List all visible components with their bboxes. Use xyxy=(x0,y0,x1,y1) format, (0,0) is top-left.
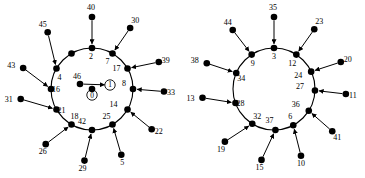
node-label: 43 xyxy=(7,61,15,70)
graph-node[interactable] xyxy=(272,127,279,134)
graph-node[interactable] xyxy=(89,14,96,21)
graph-node[interactable] xyxy=(305,107,312,114)
node-label: 0 xyxy=(90,91,94,100)
node-label: 10 xyxy=(297,159,305,168)
graph-node[interactable] xyxy=(249,120,256,127)
node-label: 21 xyxy=(57,106,65,115)
node-label: 29 xyxy=(78,164,86,173)
graph-node[interactable] xyxy=(203,60,210,67)
node-label: 27 xyxy=(296,82,304,91)
spoke-edge xyxy=(228,126,249,140)
graph-node[interactable] xyxy=(290,122,297,129)
figure-canvas: 2717814254218211644030393322529263143454… xyxy=(0,0,365,178)
node-label: 1 xyxy=(108,80,112,89)
node-label: 46 xyxy=(73,72,81,81)
node-label: 17 xyxy=(113,64,121,73)
node-label: 40 xyxy=(87,3,95,12)
spoke-edge xyxy=(26,70,48,86)
graph-node[interactable] xyxy=(124,106,131,113)
graph-node[interactable] xyxy=(293,51,300,58)
graph-node[interactable] xyxy=(68,50,75,57)
node-label: 31 xyxy=(5,95,13,104)
node-label: 13 xyxy=(187,94,195,103)
node-label: 20 xyxy=(344,55,352,64)
node-label: 38 xyxy=(191,56,199,65)
node-label: 32 xyxy=(253,112,261,121)
graph-node[interactable] xyxy=(229,27,236,34)
graph-node[interactable] xyxy=(44,29,51,36)
graph-node[interactable] xyxy=(312,87,319,94)
node-label: 24 xyxy=(294,71,302,80)
node-label: 30 xyxy=(131,16,139,25)
graph-node[interactable] xyxy=(271,14,278,21)
node-label: 37 xyxy=(265,116,273,125)
graph-node[interactable] xyxy=(311,26,318,33)
node-label: 12 xyxy=(288,59,296,68)
spoke-edge xyxy=(114,129,121,152)
spoke-edge xyxy=(210,64,232,71)
graph-node[interactable] xyxy=(109,121,116,128)
node-label: 34 xyxy=(237,74,245,83)
node-label: 11 xyxy=(349,91,357,100)
panels-group: 2717814254218211644030393322529263143454… xyxy=(5,3,357,173)
left-graph: 2717814254218211644030393322529263143454… xyxy=(5,3,175,173)
node-label: 41 xyxy=(333,133,341,142)
node-label: 15 xyxy=(255,163,263,172)
node-label: 8 xyxy=(122,79,126,88)
spoke-edge xyxy=(206,98,231,102)
spoke-edge xyxy=(294,129,300,152)
node-label: 6 xyxy=(288,112,292,121)
node-label: 22 xyxy=(155,127,163,136)
node-label: 5 xyxy=(120,158,124,167)
spoke-edge xyxy=(24,100,52,108)
node-label: 14 xyxy=(110,100,118,109)
spoke-edge xyxy=(85,134,91,157)
spoke-edge xyxy=(131,112,149,127)
node-label: 45 xyxy=(39,20,47,29)
graph-node[interactable] xyxy=(271,45,278,52)
graph-node[interactable] xyxy=(127,25,134,32)
spoke-edge xyxy=(312,113,330,129)
graph-node[interactable] xyxy=(20,65,27,72)
node-label: 2 xyxy=(89,52,93,61)
inner-edge xyxy=(83,84,104,85)
node-label: 9 xyxy=(251,59,255,68)
spoke-edge xyxy=(137,89,160,91)
node-label: 16 xyxy=(52,85,60,94)
diagram-svg: 2717814254218211644030393322529263143454… xyxy=(0,0,365,178)
node-label: 39 xyxy=(162,56,170,65)
graph-node[interactable] xyxy=(53,65,60,72)
spoke-edge xyxy=(315,63,337,70)
graph-node[interactable] xyxy=(199,94,206,101)
spoke-edge xyxy=(263,134,274,157)
node-label: 3 xyxy=(272,52,276,61)
node-label: 33 xyxy=(167,88,175,97)
graph-node[interactable] xyxy=(109,50,116,57)
graph-node[interactable] xyxy=(248,51,255,58)
node-label: 7 xyxy=(106,57,110,66)
node-label: 42 xyxy=(78,117,86,126)
spoke-edge xyxy=(48,36,55,65)
node-label: 36 xyxy=(292,100,300,109)
node-label: 44 xyxy=(224,18,232,27)
graph-node[interactable] xyxy=(68,121,75,128)
spoke-edge xyxy=(115,31,128,50)
graph-node[interactable] xyxy=(89,127,96,134)
node-label: 23 xyxy=(315,17,323,26)
graph-node[interactable] xyxy=(124,65,131,72)
graph-node[interactable] xyxy=(17,96,24,103)
node-label: 18 xyxy=(71,112,79,121)
node-label: 4 xyxy=(57,73,61,82)
node-label: 25 xyxy=(103,112,111,121)
node-label: 26 xyxy=(39,147,47,156)
graph-node[interactable] xyxy=(308,68,315,75)
spoke-edge xyxy=(48,127,68,142)
spoke-edge xyxy=(319,91,342,94)
node-label: 19 xyxy=(217,145,225,154)
spoke-edge xyxy=(132,63,156,68)
node-label: 35 xyxy=(269,3,277,12)
graph-node[interactable] xyxy=(77,81,84,88)
graph-node[interactable] xyxy=(130,86,137,93)
graph-node[interactable] xyxy=(89,45,96,52)
right-graph: 3122427366373228349352320114110151913384… xyxy=(187,3,357,172)
